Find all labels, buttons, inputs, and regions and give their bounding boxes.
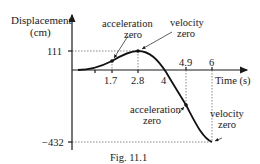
y-tick-111: 111 xyxy=(47,46,62,57)
annotation-4-line2: zero xyxy=(218,119,236,130)
x-tick-4: 4 xyxy=(161,75,167,86)
annotation-3-line1: acceleration xyxy=(130,104,181,115)
annotation-4-line1: velocity xyxy=(210,108,245,119)
x-tick-1.7: 1.7 xyxy=(104,75,117,86)
annotation-2-line1: velocity xyxy=(170,17,205,28)
y-axis-label-line1: Displacement xyxy=(11,14,71,26)
annotation-3-line2: zero xyxy=(143,115,161,126)
x-tick-4.9: 4.9 xyxy=(179,57,192,68)
y-axis-label-line2: (cm) xyxy=(30,26,51,39)
inflection-point-1 xyxy=(110,59,114,63)
max-point xyxy=(136,49,140,53)
x-tick-6: 6 xyxy=(209,57,214,68)
y-tick-neg432: −432 xyxy=(42,137,64,148)
inflection-point-2 xyxy=(184,103,188,107)
figure-caption: Fig. 11.1 xyxy=(110,152,147,163)
annotation-1-line1: acceleration xyxy=(102,18,153,29)
annotation-1-line2: zero xyxy=(124,29,142,40)
x-axis-label: Time (s) xyxy=(215,75,251,87)
annotation-arrows xyxy=(114,32,222,141)
annotation-2-line2: zero xyxy=(177,28,195,39)
x-tick-2.8: 2.8 xyxy=(131,75,144,86)
displacement-time-diagram: Displacement (cm) 111 −432 1.7 2.8 4 4.9… xyxy=(0,0,260,164)
